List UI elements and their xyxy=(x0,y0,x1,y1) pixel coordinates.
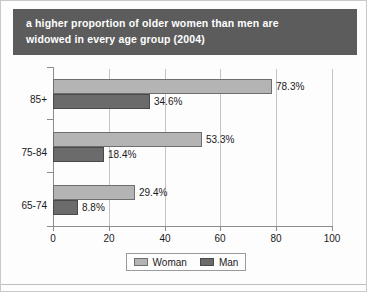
bottom-divider xyxy=(1,284,367,285)
x-axis-label-40: 40 xyxy=(150,233,180,244)
x-axis-label-60: 60 xyxy=(205,233,235,244)
legend-swatch-man xyxy=(200,258,214,266)
x-axis-label-80: 80 xyxy=(261,233,291,244)
x-tick-60 xyxy=(220,227,221,231)
legend-label-woman: Woman xyxy=(153,257,187,268)
x-tick-80 xyxy=(276,227,277,231)
bar-woman-65-74 xyxy=(53,185,135,200)
y-tick-75-65 xyxy=(47,172,53,173)
bar-label-man-65-74: 8.8% xyxy=(82,200,105,215)
x-tick-40 xyxy=(165,227,166,231)
y-tick-top xyxy=(47,67,53,68)
chart-title-banner: a higher proportion of older women than … xyxy=(13,9,357,55)
bar-label-woman-65-74: 29.4% xyxy=(139,185,167,200)
x-tick-0 xyxy=(53,227,54,231)
category-label-85plus: 85+ xyxy=(5,94,47,105)
x-axis-label-20: 20 xyxy=(94,233,124,244)
title-line-1: a higher proportion of older women than … xyxy=(26,16,357,32)
legend-label-man: Man xyxy=(219,257,238,268)
x-tick-20 xyxy=(109,227,110,231)
bar-man-85plus xyxy=(53,94,150,109)
bar-man-65-74 xyxy=(53,200,78,215)
bar-woman-85plus xyxy=(53,79,272,94)
legend-item-woman: Woman xyxy=(134,257,187,268)
legend-item-man: Man xyxy=(200,257,238,268)
bar-label-woman-75-84: 53.3% xyxy=(206,132,234,147)
bar-man-75-84 xyxy=(53,147,104,162)
x-axis-line xyxy=(53,226,333,227)
title-line-2: widowed in every age group (2004) xyxy=(26,32,357,48)
bar-label-woman-85plus: 78.3% xyxy=(276,79,304,94)
category-label-65-74: 65-74 xyxy=(5,200,47,211)
x-axis-label-0: 0 xyxy=(38,233,68,244)
category-label-75-84: 75-84 xyxy=(5,147,47,158)
gridline-100 xyxy=(332,69,333,226)
legend-swatch-woman xyxy=(134,258,148,266)
bar-label-man-75-84: 18.4% xyxy=(108,147,136,162)
chart-legend: Woman Man xyxy=(126,253,246,271)
bar-woman-75-84 xyxy=(53,132,202,147)
x-axis-label-100: 100 xyxy=(317,233,347,244)
bar-label-man-85plus: 34.6% xyxy=(154,94,182,109)
x-tick-100 xyxy=(332,227,333,231)
chart-figure: a higher proportion of older women than … xyxy=(0,0,367,292)
y-tick-85-75 xyxy=(47,119,53,120)
